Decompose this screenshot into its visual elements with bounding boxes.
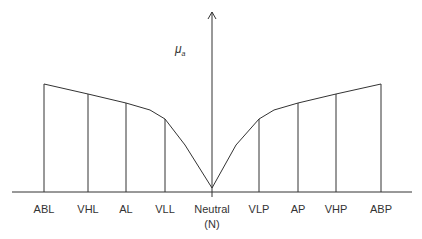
label-vhp: VHP xyxy=(325,203,348,216)
label-ap: AP xyxy=(291,203,306,216)
label-vll: VLL xyxy=(155,203,175,216)
y-axis-label: μa xyxy=(175,42,185,57)
label-abl: ABL xyxy=(34,203,55,216)
label-al: AL xyxy=(119,203,132,216)
label-vhl: VHL xyxy=(77,203,98,216)
label-abp: ABP xyxy=(370,203,392,216)
label-neutral: Neutral xyxy=(194,203,229,216)
label-neutral-n: (N) xyxy=(204,218,219,231)
label-vlp: VLP xyxy=(249,203,270,216)
